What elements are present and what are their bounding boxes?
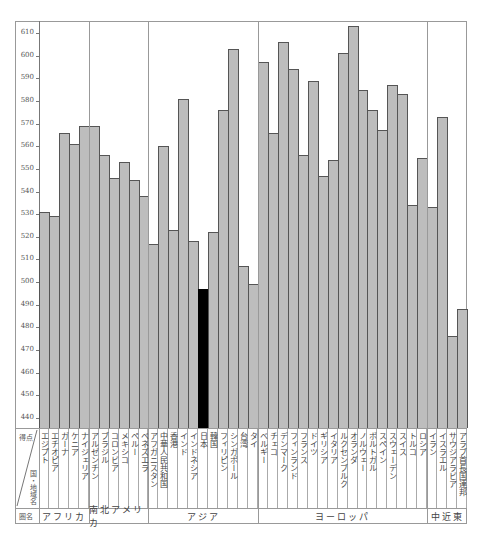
y-tick-label: 440: [21, 413, 34, 421]
region-label: 中近東: [427, 508, 467, 524]
y-tick-label: 530: [21, 209, 34, 217]
region-header: 圏名: [19, 511, 33, 521]
region-label: アフリカ: [39, 508, 89, 524]
y-tick-label: 580: [21, 96, 34, 104]
bar-アラブ首長国連邦: [457, 309, 468, 428]
y-tick-label: 600: [21, 51, 34, 59]
y-tick-label: 610: [21, 28, 34, 36]
region-label: ヨーロッパ: [258, 508, 427, 524]
y-tick-label: 520: [21, 232, 34, 240]
y-tick-label: 480: [21, 322, 34, 330]
y-tick-label: 500: [21, 277, 34, 285]
plot-area: [39, 21, 467, 428]
y-tick-label: 460: [21, 368, 34, 376]
region-label: 南北アメリカ: [89, 508, 149, 524]
y-tick-label: 490: [21, 300, 34, 308]
y-tick-label: 510: [21, 254, 34, 262]
y-tick-label: 590: [21, 73, 34, 81]
y-tick-label: 550: [21, 164, 34, 172]
y-tick-label: 450: [21, 390, 34, 398]
y-tick-label: 570: [21, 119, 34, 127]
country-label: アラブ首長国連邦: [457, 429, 467, 508]
y-tick-label: 540: [21, 187, 34, 195]
y-tick-label: 470: [21, 345, 34, 353]
y-tick-label: 560: [21, 141, 34, 149]
region-label: アジア: [148, 508, 257, 524]
header-diagonal: [15, 428, 39, 508]
